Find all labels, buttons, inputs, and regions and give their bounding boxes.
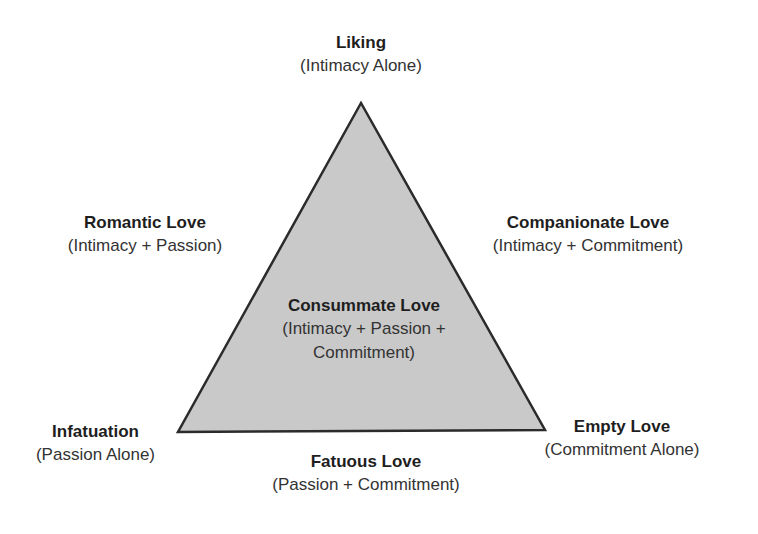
label-subtitle-line1: (Intimacy + Passion + bbox=[259, 317, 469, 341]
label-consummate-love: Consummate Love (Intimacy + Passion + Co… bbox=[259, 295, 469, 365]
label-title: Fatuous Love bbox=[256, 451, 476, 473]
label-subtitle: (Passion + Commitment) bbox=[256, 473, 476, 497]
label-fatuous-love: Fatuous Love (Passion + Commitment) bbox=[256, 451, 476, 497]
label-infatuation: Infatuation (Passion Alone) bbox=[8, 421, 183, 467]
label-companionate-love: Companionate Love (Intimacy + Commitment… bbox=[468, 212, 708, 258]
label-subtitle: (Intimacy + Passion) bbox=[45, 234, 245, 258]
label-subtitle: (Passion Alone) bbox=[8, 443, 183, 467]
label-subtitle-line2: Commitment) bbox=[259, 341, 469, 365]
label-title: Liking bbox=[261, 32, 461, 54]
label-romantic-love: Romantic Love (Intimacy + Passion) bbox=[45, 212, 245, 258]
label-subtitle: (Commitment Alone) bbox=[522, 438, 722, 462]
triangle-shape bbox=[178, 103, 545, 432]
label-empty-love: Empty Love (Commitment Alone) bbox=[522, 416, 722, 462]
label-title: Infatuation bbox=[8, 421, 183, 443]
label-subtitle: (Intimacy + Commitment) bbox=[468, 234, 708, 258]
label-title: Consummate Love bbox=[259, 295, 469, 317]
label-subtitle: (Intimacy Alone) bbox=[261, 54, 461, 78]
label-liking: Liking (Intimacy Alone) bbox=[261, 32, 461, 78]
label-title: Romantic Love bbox=[45, 212, 245, 234]
label-title: Empty Love bbox=[522, 416, 722, 438]
label-title: Companionate Love bbox=[468, 212, 708, 234]
